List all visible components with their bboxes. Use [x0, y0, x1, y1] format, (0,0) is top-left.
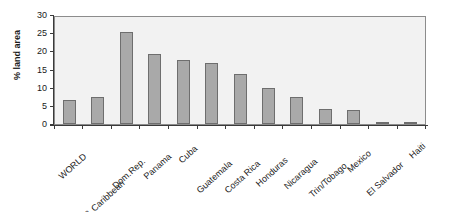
bar[interactable]: [376, 122, 389, 124]
bar[interactable]: [347, 110, 360, 124]
y-axis-tick-label: 25: [37, 27, 47, 39]
x-axis-category-label-text: El Salvador: [365, 160, 406, 198]
bar-slot: [340, 17, 368, 124]
bar[interactable]: [148, 54, 161, 124]
plot-area: [54, 16, 426, 125]
x-axis-category-label: Haiti: [421, 129, 441, 148]
bar-slot: [368, 17, 396, 124]
bars-layer: [55, 17, 425, 124]
bar-slot: [254, 17, 282, 124]
bar[interactable]: [404, 122, 417, 124]
bar-slot: [197, 17, 225, 124]
bar[interactable]: [63, 100, 76, 124]
y-axis-tick-label: 20: [37, 45, 47, 57]
y-axis-tick-label: 0: [42, 118, 47, 130]
y-axis-tick-label: 10: [37, 82, 47, 94]
y-axis: 051015202530: [0, 16, 54, 125]
bar-chart: % land area 051015202530 WORLDL.Am & Car…: [0, 0, 458, 212]
x-axis-category-label: WORLD: [81, 129, 113, 159]
bar[interactable]: [290, 97, 303, 124]
bar-slot: [83, 17, 111, 124]
bar[interactable]: [177, 60, 190, 124]
bar-slot: [283, 17, 311, 124]
bar-slot: [140, 17, 168, 124]
bar[interactable]: [91, 97, 104, 124]
y-axis-tick-label: 30: [37, 9, 47, 21]
bar-slot: [169, 17, 197, 124]
bar-slot: [397, 17, 425, 124]
bar[interactable]: [262, 88, 275, 124]
bar-slot: [226, 17, 254, 124]
bar-slot: [55, 17, 83, 124]
bar-slot: [311, 17, 339, 124]
y-axis-tick-label: 5: [42, 100, 47, 112]
y-axis-tick-label: 15: [37, 64, 47, 76]
x-axis-category-labels: WORLDL.Am & CaribbeanDom.Rep.PanamaCubaG…: [54, 129, 426, 209]
bar-slot: [112, 17, 140, 124]
bar[interactable]: [319, 109, 332, 124]
bar[interactable]: [234, 74, 247, 125]
bar[interactable]: [205, 63, 218, 124]
x-axis-category-label-text: WORLD: [56, 151, 88, 181]
x-axis-category-label: Cuba: [193, 129, 216, 151]
bar[interactable]: [120, 32, 133, 124]
